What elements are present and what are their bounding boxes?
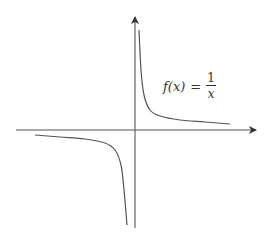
fraction: 1 x [206,72,216,100]
fraction-numerator: 1 [206,72,216,86]
equals-sign: = [190,79,201,94]
curve-lower-left-branch [35,135,127,225]
function-plot [0,0,275,241]
function-name: f(x) [163,79,185,94]
fraction-denominator: x [208,86,215,100]
function-label: f(x) = 1 x [163,72,216,100]
